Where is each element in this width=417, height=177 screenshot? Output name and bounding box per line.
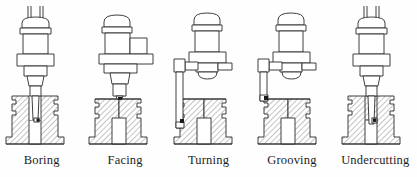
machining-operations-figure: Boring Facing Turning Grooving Undercutt…	[0, 0, 417, 177]
label-undercutting: Undercutting	[334, 150, 417, 177]
label-facing: Facing	[83, 150, 166, 177]
undercutting-spindle-head	[353, 6, 390, 96]
boring-tool	[32, 96, 40, 122]
grooving-workpiece	[258, 99, 316, 144]
facing-tool	[116, 96, 123, 100]
operation-diagrams	[0, 0, 417, 152]
facing-workpiece	[89, 99, 147, 144]
label-grooving: Grooving	[250, 150, 333, 177]
panel-undercutting	[342, 6, 400, 144]
label-boring: Boring	[0, 150, 83, 177]
panel-boring	[6, 6, 64, 144]
grooving-tool-arm	[258, 59, 282, 101]
label-turning: Turning	[167, 150, 250, 177]
facing-spindle-head	[99, 15, 153, 96]
panel-grooving	[258, 13, 316, 144]
panel-facing	[89, 15, 153, 144]
operation-labels: Boring Facing Turning Grooving Undercutt…	[0, 150, 417, 177]
boring-spindle-head	[17, 6, 54, 96]
panel-turning	[174, 13, 232, 144]
